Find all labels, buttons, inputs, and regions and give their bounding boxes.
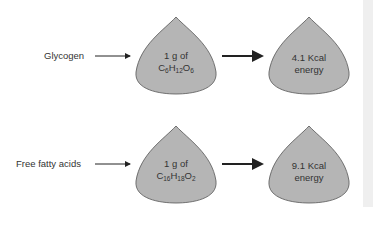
formula-subscript: 12 [176,67,183,74]
formula-subscript: 6 [165,67,169,74]
output-energy-label-2: energy [274,172,344,184]
formula-subscript: 6 [190,67,194,74]
source-label-glycogen: Glycogen [44,50,84,61]
formula-subscript: 18 [177,175,184,182]
source-label-free-fatty-acids: Free fatty acids [16,158,81,169]
input-formula-2: C16H18O2 [141,170,211,182]
output-energy-value-1: 4.1 Kcal [274,52,344,64]
input-formula-1: C6H12O6 [141,62,211,74]
formula-subscript: 2 [192,175,196,182]
input-amount-1: 1 g of [141,50,211,62]
output-energy-value-2: 9.1 Kcal [274,160,344,172]
formula-subscript: 16 [163,175,170,182]
output-energy-label-1: energy [274,64,344,76]
input-amount-2: 1 g of [141,158,211,170]
